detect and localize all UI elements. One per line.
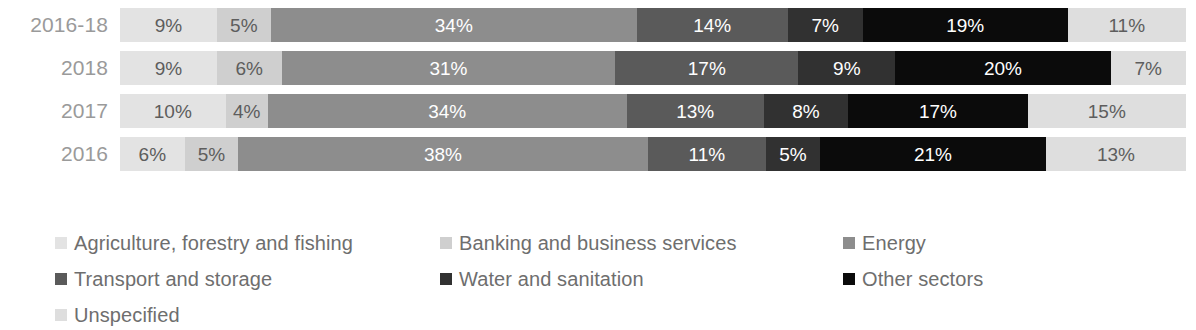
legend-label: Water and sanitation xyxy=(459,268,644,291)
segment-value-label: 31% xyxy=(429,59,467,78)
bar-track: 9%6%31%17%9%20%7% xyxy=(120,51,1186,85)
bar-segment: 13% xyxy=(627,94,764,128)
legend-swatch-icon xyxy=(55,237,67,249)
bar-segment: 14% xyxy=(637,8,788,42)
segment-value-label: 5% xyxy=(779,145,806,164)
segment-value-label: 21% xyxy=(914,145,952,164)
segment-value-label: 9% xyxy=(155,59,182,78)
segment-value-label: 10% xyxy=(154,102,192,121)
bar-segment: 4% xyxy=(226,94,268,128)
segment-value-label: 7% xyxy=(812,16,839,35)
legend-item[interactable]: Energy xyxy=(843,228,926,258)
segment-value-label: 17% xyxy=(688,59,726,78)
chart-legend: Agriculture, forestry and fishingBanking… xyxy=(0,214,1196,330)
category-label: 2017 xyxy=(0,94,108,128)
segment-value-label: 13% xyxy=(676,102,714,121)
segment-value-label: 34% xyxy=(428,102,466,121)
bar-segment: 21% xyxy=(820,137,1046,171)
bar-segment: 34% xyxy=(271,8,637,42)
segment-value-label: 4% xyxy=(233,102,260,121)
legend-label: Agriculture, forestry and fishing xyxy=(74,232,353,255)
bar-track: 9%5%34%14%7%19%11% xyxy=(120,8,1186,42)
bar-segment: 5% xyxy=(766,137,820,171)
legend-swatch-icon xyxy=(843,273,855,285)
category-label: 2016-18 xyxy=(0,8,108,42)
bar-row: 2016-189%5%34%14%7%19%11% xyxy=(0,8,1196,42)
segment-value-label: 38% xyxy=(424,145,462,164)
bar-segment: 6% xyxy=(120,137,185,171)
bar-segment: 11% xyxy=(648,137,766,171)
legend-label: Transport and storage xyxy=(74,268,272,291)
segment-value-label: 14% xyxy=(693,16,731,35)
segment-value-label: 8% xyxy=(792,102,819,121)
segment-value-label: 34% xyxy=(435,16,473,35)
bar-segment: 8% xyxy=(764,94,848,128)
segment-value-label: 7% xyxy=(1135,59,1162,78)
segment-value-label: 6% xyxy=(235,59,262,78)
segment-value-label: 11% xyxy=(1108,16,1145,35)
category-label: 2016 xyxy=(0,137,108,171)
segment-value-label: 13% xyxy=(1097,145,1135,164)
bar-segment: 9% xyxy=(120,51,217,85)
legend-swatch-icon xyxy=(843,237,855,249)
legend-label: Other sectors xyxy=(862,268,983,291)
legend-label: Banking and business services xyxy=(459,232,737,255)
bar-segment: 9% xyxy=(120,8,217,42)
segment-value-label: 11% xyxy=(688,145,725,164)
legend-swatch-icon xyxy=(55,309,67,321)
bar-segment: 19% xyxy=(863,8,1068,42)
legend-item[interactable]: Agriculture, forestry and fishing xyxy=(55,228,353,258)
bar-segment: 15% xyxy=(1028,94,1186,128)
bar-segment: 9% xyxy=(798,51,895,85)
legend-label: Unspecified xyxy=(74,304,180,327)
segment-value-label: 6% xyxy=(139,145,166,164)
bar-segment: 5% xyxy=(217,8,271,42)
bar-segment: 10% xyxy=(120,94,226,128)
bar-row: 20166%5%38%11%5%21%13% xyxy=(0,137,1196,171)
legend-label: Energy xyxy=(862,232,926,255)
stacked-bar-chart: 2016-189%5%34%14%7%19%11%20189%6%31%17%9… xyxy=(0,0,1196,330)
plot-area: 2016-189%5%34%14%7%19%11%20189%6%31%17%9… xyxy=(0,0,1196,196)
legend-swatch-icon xyxy=(440,237,452,249)
bar-segment: 34% xyxy=(268,94,627,128)
bar-track: 10%4%34%13%8%17%15% xyxy=(120,94,1186,128)
legend-item[interactable]: Unspecified xyxy=(55,300,180,330)
bar-row: 201710%4%34%13%8%17%15% xyxy=(0,94,1196,128)
bar-segment: 5% xyxy=(185,137,239,171)
segment-value-label: 17% xyxy=(919,102,957,121)
category-label: 2018 xyxy=(0,51,108,85)
segment-value-label: 9% xyxy=(155,16,182,35)
bar-segment: 7% xyxy=(1111,51,1186,85)
segment-value-label: 5% xyxy=(230,16,257,35)
legend-swatch-icon xyxy=(55,273,67,285)
segment-value-label: 5% xyxy=(198,145,225,164)
legend-item[interactable]: Water and sanitation xyxy=(440,264,644,294)
bar-segment: 11% xyxy=(1068,8,1186,42)
legend-item[interactable]: Other sectors xyxy=(843,264,983,294)
bar-segment: 7% xyxy=(788,8,863,42)
bar-segment: 31% xyxy=(282,51,616,85)
bar-segment: 6% xyxy=(217,51,282,85)
legend-swatch-icon xyxy=(440,273,452,285)
segment-value-label: 20% xyxy=(984,59,1022,78)
legend-item[interactable]: Transport and storage xyxy=(55,264,272,294)
segment-value-label: 19% xyxy=(946,16,984,35)
bar-segment: 17% xyxy=(848,94,1027,128)
bar-segment: 17% xyxy=(615,51,798,85)
bar-segment: 38% xyxy=(238,137,647,171)
bar-track: 6%5%38%11%5%21%13% xyxy=(120,137,1186,171)
segment-value-label: 15% xyxy=(1088,102,1126,121)
bar-segment: 20% xyxy=(895,51,1110,85)
legend-item[interactable]: Banking and business services xyxy=(440,228,737,258)
bar-segment: 13% xyxy=(1046,137,1186,171)
bar-row: 20189%6%31%17%9%20%7% xyxy=(0,51,1196,85)
segment-value-label: 9% xyxy=(833,59,860,78)
